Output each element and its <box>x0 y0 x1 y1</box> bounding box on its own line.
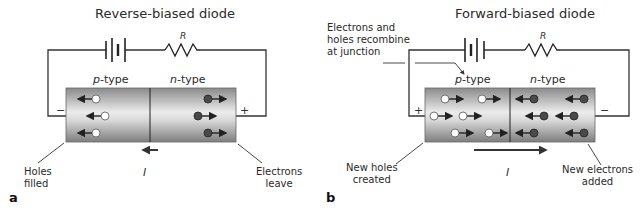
annotation-new-holes: New holes created <box>346 162 398 186</box>
n-type-label-b: n-type <box>530 73 566 86</box>
current-label-b: I <box>506 166 509 179</box>
annotation-recombine: Electrons and holes recombine at junctio… <box>327 22 410 58</box>
annotation-holes-filled: Holes filled <box>24 166 52 190</box>
n-type-label-a: n-type <box>170 73 206 86</box>
terminal-sign-b-right: − <box>600 104 609 117</box>
leader-new-holes <box>396 143 423 164</box>
resistor-label-a: R <box>180 31 186 41</box>
battery-icon <box>106 38 125 62</box>
current-label-a: I <box>143 166 146 179</box>
resistor-icon <box>165 44 200 56</box>
battery-icon <box>465 38 484 62</box>
annotation-electrons-leave: Electrons leave <box>256 166 302 190</box>
annotation-new-electrons: New electrons added <box>562 164 633 188</box>
terminal-sign-a-right: + <box>240 104 249 117</box>
leader-electrons-leave <box>238 144 262 163</box>
circuit-b <box>383 38 629 165</box>
panel-letter-b: b <box>326 190 335 205</box>
title-forward-biased: Forward-biased diode <box>455 6 595 21</box>
resistor-icon <box>525 44 560 56</box>
circuit-a <box>38 38 266 163</box>
terminal-sign-b-left: + <box>414 104 423 117</box>
leader-holes-filled <box>38 143 64 163</box>
title-reverse-biased: Reverse-biased diode <box>95 6 235 21</box>
p-type-label-a: p-type <box>93 73 129 86</box>
resistor-label-b: R <box>540 31 546 41</box>
terminal-sign-a-left: − <box>56 104 65 117</box>
p-type-label-b: p-type <box>455 73 491 86</box>
leader-new-electrons <box>588 144 601 165</box>
panel-letter-a: a <box>9 190 18 205</box>
